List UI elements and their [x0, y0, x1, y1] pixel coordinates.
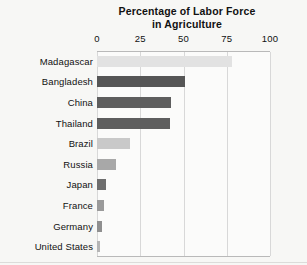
x-axis-tick-labels: 0255075100: [0, 33, 307, 47]
category-label-brazil: Brazil: [0, 138, 93, 149]
category-label-france: France: [0, 200, 93, 211]
category-label-china: China: [0, 97, 93, 108]
bar-row: Germany: [0, 216, 307, 237]
bar-bangladesh: [97, 76, 185, 87]
chart-title-line-2: in Agriculture: [97, 18, 277, 31]
bar-germany: [97, 221, 102, 232]
x-tick-label-0: 0: [94, 33, 99, 44]
chart-title-line-1: Percentage of Labor Force: [97, 5, 277, 18]
x-tick-label-75: 75: [221, 33, 232, 44]
bar-row: Brazil: [0, 133, 307, 154]
bar-row: Bangladesh: [0, 72, 307, 93]
bar-brazil: [97, 138, 130, 149]
bar-russia: [97, 159, 116, 170]
x-tick-label-25: 25: [135, 33, 146, 44]
x-tick-label-50: 50: [178, 33, 189, 44]
bar-thailand: [97, 118, 170, 129]
category-label-thailand: Thailand: [0, 118, 93, 129]
bar-united-states: [97, 241, 100, 252]
category-label-bangladesh: Bangladesh: [0, 76, 93, 87]
chart-title: Percentage of Labor Force in Agriculture: [97, 5, 277, 30]
bar-row: United States: [0, 236, 307, 257]
bar-row: Madagascar: [0, 51, 307, 72]
category-label-united-states: United States: [0, 241, 93, 252]
bar-france: [97, 200, 104, 211]
bar-row: Russia: [0, 154, 307, 175]
bar-madagascar: [97, 56, 232, 67]
bar-row: France: [0, 195, 307, 216]
category-label-russia: Russia: [0, 159, 93, 170]
bar-chart: Percentage of Labor Force in Agriculture…: [0, 0, 307, 265]
bar-row: Japan: [0, 175, 307, 196]
x-tick-label-100: 100: [262, 33, 278, 44]
bar-china: [97, 97, 171, 108]
bar-rows: MadagascarBangladeshChinaThailandBrazilR…: [0, 51, 307, 257]
category-label-madagascar: Madagascar: [0, 56, 93, 67]
category-label-germany: Germany: [0, 221, 93, 232]
bar-row: Thailand: [0, 113, 307, 134]
bottom-rule: [0, 262, 307, 263]
bar-japan: [97, 179, 106, 190]
bar-row: China: [0, 92, 307, 113]
category-label-japan: Japan: [0, 179, 93, 190]
